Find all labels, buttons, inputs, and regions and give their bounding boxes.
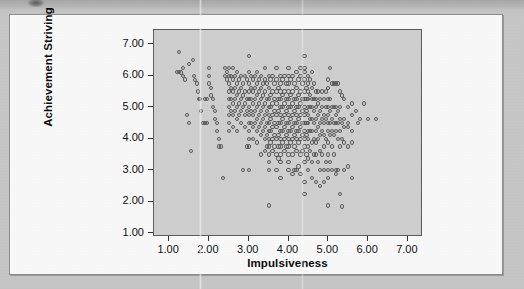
scatter-point (261, 93, 265, 97)
scatter-point (253, 121, 257, 125)
y-axis-tick-mark (148, 169, 153, 170)
scatter-point (267, 144, 271, 148)
scatter-point (350, 176, 354, 180)
scatter-point (267, 152, 271, 156)
scatter-point (346, 144, 350, 148)
scatter-point (231, 89, 235, 93)
scatter-point (306, 81, 310, 85)
scatter-point (183, 77, 187, 81)
scatter-point (298, 172, 302, 176)
scatter-point (312, 81, 316, 85)
scatter-point (251, 125, 255, 129)
scatter-point (302, 70, 306, 74)
scatter-point (253, 109, 257, 113)
scatter-point (310, 160, 314, 164)
scatter-point (231, 113, 235, 117)
scatter-point (316, 160, 320, 164)
scatter-point (231, 125, 235, 129)
scatter-point (259, 121, 263, 125)
scatter-point (235, 117, 239, 121)
scatter-point (177, 50, 181, 54)
scatter-point (286, 160, 290, 164)
scatter-point (322, 144, 326, 148)
scatter-point (247, 129, 251, 133)
scatter-point (263, 101, 267, 105)
scatter-point (235, 129, 239, 133)
scatter-point (302, 192, 306, 196)
scatter-point (233, 109, 237, 113)
scatter-point (296, 129, 300, 133)
scatter-point (320, 152, 324, 156)
scatter-point (318, 184, 322, 188)
scatter-point (326, 203, 330, 207)
scatter-point (261, 105, 265, 109)
scatter-point (251, 137, 255, 141)
scatter-point (257, 101, 261, 105)
scatter-point (274, 66, 278, 70)
x-axis-tick-mark (288, 236, 289, 241)
scatter-point (231, 77, 235, 81)
scatter-point (237, 101, 241, 105)
y-axis-tick-label: 4.00 (123, 132, 144, 143)
scatter-point (316, 125, 320, 129)
scatter-point (251, 77, 255, 81)
scatter-point (241, 81, 245, 85)
scatter-point (263, 125, 267, 129)
scatter-point (350, 140, 354, 144)
scatter-point (205, 97, 209, 101)
scatter-point (243, 101, 247, 105)
scatter-point (302, 54, 306, 58)
scatter-point (257, 125, 261, 129)
scatter-point (278, 176, 282, 180)
page-top-band (0, 0, 524, 9)
scatter-point (196, 89, 200, 93)
y-axis-tick-label: 2.00 (123, 195, 144, 206)
scatter-point (332, 152, 336, 156)
scatter-point (338, 144, 342, 148)
scatter-point (328, 109, 332, 113)
scatter-point (261, 129, 265, 133)
scatter-point (282, 125, 286, 129)
scatter-point (328, 160, 332, 164)
scatter-point (326, 176, 330, 180)
scatter-point (350, 113, 354, 117)
scatter-point (306, 121, 310, 125)
y-axis-tick-mark (148, 43, 153, 44)
x-axis-tick-mark (208, 236, 209, 241)
scatter-points-layer (154, 30, 421, 235)
scatter-point (213, 109, 217, 113)
scatter-point (247, 168, 251, 172)
scatter-point (366, 117, 370, 121)
scatter-point (306, 168, 310, 172)
scatter-point (274, 125, 278, 129)
scatter-point (298, 125, 302, 129)
scatter-point (215, 121, 219, 125)
scatter-point (257, 113, 261, 117)
scatter-point (209, 86, 213, 90)
scatter-point (257, 77, 261, 81)
scatter-point (346, 105, 350, 109)
y-axis-tick-label: 7.00 (123, 38, 144, 49)
scatter-point (316, 137, 320, 141)
scatter-point (263, 66, 267, 70)
scatter-point (336, 109, 340, 113)
scatter-point (286, 144, 290, 148)
y-axis-tick-mark (148, 138, 153, 139)
scatter-point (328, 66, 332, 70)
scatter-point (259, 74, 263, 78)
scatter-point (346, 164, 350, 168)
x-axis-tick-label: 1.00 (157, 243, 178, 255)
scatter-point (247, 54, 251, 58)
plot-area (153, 29, 422, 236)
scatter-point (338, 105, 342, 109)
scatter-point (261, 117, 265, 121)
scatter-point (328, 97, 332, 101)
scatter-point (247, 144, 251, 148)
scatter-point (263, 89, 267, 93)
scatter-point (199, 109, 203, 113)
scatter-point (326, 152, 330, 156)
y-axis-tick-mark (148, 75, 153, 76)
scatter-point (235, 70, 239, 74)
scatter-point (350, 101, 354, 105)
scatter-point (239, 121, 243, 125)
